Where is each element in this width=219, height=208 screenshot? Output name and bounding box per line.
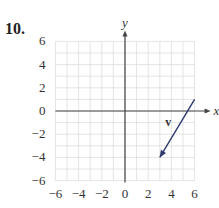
y-tick-label: −4: [32, 149, 46, 164]
x-tick-label: −4: [72, 186, 86, 201]
x-tick-label: 2: [145, 186, 152, 201]
coordinate-plane: xy−6−4−202466420−2−4−6v: [0, 0, 219, 208]
vector-label: v: [165, 115, 171, 129]
y-axis-label: y: [120, 15, 128, 30]
x-axis-label: x: [213, 103, 219, 118]
y-tick-label: 4: [39, 57, 46, 72]
y-tick-label: −2: [32, 126, 46, 141]
x-tick-label: 0: [122, 186, 129, 201]
y-tick-label: 6: [39, 33, 46, 48]
x-tick-label: 4: [168, 186, 175, 201]
x-tick-label: −2: [95, 186, 109, 201]
x-tick-label: −6: [48, 186, 62, 201]
y-tick-label: 2: [39, 80, 46, 95]
y-tick-label: 0: [39, 103, 46, 118]
x-tick-label: 6: [191, 186, 198, 201]
y-tick-label: −6: [32, 173, 46, 188]
y-axis-arrow-icon: [123, 30, 128, 36]
x-axis-arrow-icon: [205, 109, 211, 114]
